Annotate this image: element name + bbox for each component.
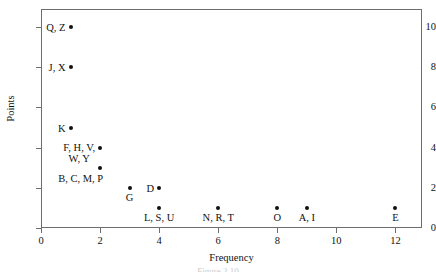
data-point xyxy=(69,25,73,29)
data-point-label: A, I xyxy=(299,212,315,223)
y-axis-tick xyxy=(36,67,41,68)
y-axis-tick-label: 6 xyxy=(402,102,436,112)
x-axis-tick xyxy=(159,228,160,233)
y-axis-tick xyxy=(36,27,41,28)
y-axis-tick xyxy=(36,107,41,108)
data-point-label: O xyxy=(273,212,281,223)
x-axis-tick-label: 6 xyxy=(203,236,233,246)
x-axis-tick xyxy=(100,228,101,233)
x-axis-title: Frequency xyxy=(41,252,422,263)
y-axis-tick-label: 10 xyxy=(402,22,436,32)
x-axis-tick xyxy=(41,228,42,233)
x-axis-tick-label: 4 xyxy=(144,236,174,246)
data-point-label: K xyxy=(58,122,66,133)
data-point-label: J, X xyxy=(49,62,66,73)
data-point xyxy=(128,186,132,190)
data-point-label: F, H, V,W, Y xyxy=(63,142,95,164)
data-point-label: B, C, M, P xyxy=(58,172,103,183)
y-axis-tick-label: 8 xyxy=(402,62,436,72)
x-axis-tick xyxy=(218,228,219,233)
data-point-label: E xyxy=(392,212,398,223)
data-point xyxy=(98,166,102,170)
x-axis-tick-label: 8 xyxy=(262,236,292,246)
data-point-label: N, R, T xyxy=(203,212,234,223)
data-point xyxy=(157,206,161,210)
data-point xyxy=(69,126,73,130)
y-axis-tick-label: 4 xyxy=(402,143,436,153)
data-point xyxy=(157,186,161,190)
plot-area xyxy=(41,9,422,228)
y-axis-tick xyxy=(36,148,41,149)
data-point xyxy=(305,206,309,210)
data-point-label: Q, Z xyxy=(46,22,65,33)
data-point xyxy=(69,65,73,69)
x-axis-tick xyxy=(395,228,396,233)
y-axis-tick-label: 2 xyxy=(402,183,436,193)
x-axis-tick-label: 12 xyxy=(380,236,410,246)
data-point-label: L, S, U xyxy=(144,212,174,223)
data-point-label: D xyxy=(147,182,155,193)
y-axis-tick xyxy=(36,188,41,189)
x-axis-tick xyxy=(336,228,337,233)
x-axis-tick-label: 10 xyxy=(321,236,351,246)
x-axis-tick xyxy=(277,228,278,233)
x-axis-tick-label: 2 xyxy=(85,236,115,246)
y-axis-title: Points xyxy=(5,79,16,139)
scatter-figure: 0246810024681012 Q, ZJ, XKF, H, V,W, YB,… xyxy=(0,0,436,272)
data-point xyxy=(98,146,102,150)
x-axis-tick-label: 0 xyxy=(26,236,56,246)
y-axis-tick-label: 0 xyxy=(402,223,436,233)
figure-caption-fragment: Figure 2.10 xyxy=(0,266,436,272)
data-point-label: G xyxy=(126,192,134,203)
